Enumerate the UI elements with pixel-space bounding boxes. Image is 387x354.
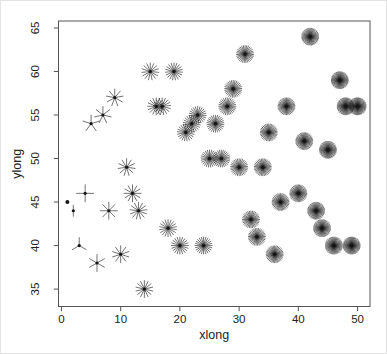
data-point-star <box>142 63 159 80</box>
data-point-star <box>124 185 141 202</box>
x-axis-title: xlong <box>199 328 229 342</box>
data-point-star <box>72 205 75 216</box>
data-point-star <box>314 220 331 237</box>
x-tick-label: 10 <box>114 313 127 325</box>
x-axis: 01020304050 <box>58 307 364 325</box>
scatter-plot-figure: 0102030405035404550556065xlongylong <box>0 0 387 354</box>
data-point-star <box>325 237 342 254</box>
data-point-star <box>207 115 224 132</box>
data-point-star <box>237 46 254 63</box>
data-point-star <box>308 202 325 219</box>
y-tick-label: 35 <box>29 283 41 296</box>
x-tick-label: 20 <box>174 313 187 325</box>
y-tick-label: 60 <box>29 65 41 78</box>
data-point-star <box>278 98 295 115</box>
data-point-star <box>83 115 99 130</box>
data-point-star <box>231 159 248 176</box>
data-point-star <box>195 237 212 254</box>
y-tick-label: 65 <box>29 22 41 35</box>
data-point-star <box>260 124 277 141</box>
data-point-star <box>90 254 105 271</box>
data-point-star <box>290 185 307 202</box>
data-point-star <box>130 202 147 219</box>
x-tick-label: 40 <box>292 313 305 325</box>
data-point-star <box>106 89 123 105</box>
data-point-star <box>72 238 86 250</box>
data-point-star <box>272 194 289 211</box>
data-point-star <box>95 107 112 123</box>
scatter-plot: 0102030405035404550556065xlongylong <box>1 1 387 354</box>
x-tick-label: 30 <box>233 313 246 325</box>
plot-box <box>59 21 371 307</box>
data-point-star <box>77 185 94 202</box>
y-tick-label: 55 <box>29 109 41 122</box>
data-point-star <box>248 228 265 245</box>
y-axis-title: ylong <box>10 149 24 179</box>
data-point-star <box>319 141 336 158</box>
x-tick-label: 0 <box>58 313 64 325</box>
data-point-star <box>254 159 271 176</box>
data-points <box>65 28 366 297</box>
data-point-star <box>171 237 188 254</box>
y-tick-label: 50 <box>29 152 41 165</box>
data-point-star <box>296 133 313 150</box>
data-point-star <box>65 200 69 204</box>
x-tick-label: 50 <box>351 313 364 325</box>
data-point-star <box>266 246 283 263</box>
data-point-star <box>219 98 236 115</box>
data-point-star <box>166 63 183 80</box>
data-point-star <box>331 72 348 89</box>
data-point-star <box>118 159 135 176</box>
y-tick-label: 40 <box>29 239 41 252</box>
y-axis: 35404550556065 <box>29 22 59 296</box>
y-tick-label: 45 <box>29 196 41 209</box>
data-point-star <box>160 220 177 237</box>
data-point-star <box>242 211 259 228</box>
data-point-star <box>100 202 117 219</box>
data-point-star <box>113 246 129 263</box>
data-point-star <box>225 80 242 97</box>
data-point-star <box>349 98 366 115</box>
data-point-star <box>302 28 319 45</box>
data-point-star <box>136 281 153 298</box>
data-point-star <box>343 237 360 254</box>
